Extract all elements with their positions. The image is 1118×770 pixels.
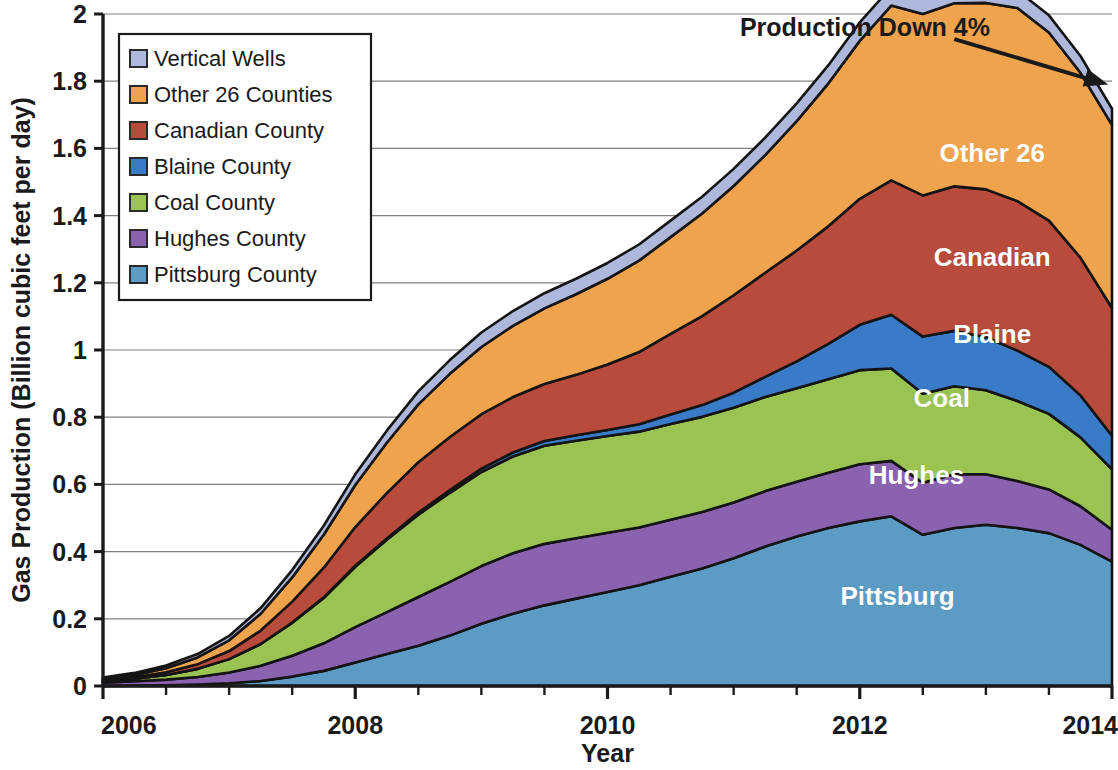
- y-tick-label: 0.8: [52, 403, 87, 431]
- x-tick-label: 2008: [327, 711, 383, 739]
- legend-label: Vertical Wells: [154, 46, 286, 71]
- legend-label: Blaine County: [154, 154, 291, 179]
- legend-item-pittsburg-county[interactable]: Pittsburg County: [130, 262, 317, 287]
- series-label-canadian: Canadian: [934, 242, 1051, 272]
- x-axis-title: Year: [581, 739, 634, 767]
- legend-item-other-26-counties[interactable]: Other 26 Counties: [130, 82, 333, 107]
- series-label-coal: Coal: [914, 383, 970, 413]
- series-label-pittsburg: Pittsburg: [841, 581, 955, 611]
- legend-label: Other 26 Counties: [154, 82, 333, 107]
- x-tick-label: 2006: [101, 711, 157, 739]
- y-tick-label: 2: [73, 0, 87, 28]
- y-tick-label: 0.6: [52, 470, 87, 498]
- y-tick-label: 0.4: [52, 538, 87, 566]
- legend-item-canadian-county[interactable]: Canadian County: [130, 118, 324, 143]
- legend-label: Canadian County: [154, 118, 324, 143]
- production-down-annotation-text: Production Down 4%: [740, 13, 990, 41]
- y-axis-title: Gas Production (Billion cubic feet per d…: [7, 97, 35, 603]
- legend-label: Hughes County: [154, 226, 306, 251]
- chart-canvas: 00.20.40.60.811.21.41.61.822006200820102…: [0, 0, 1118, 770]
- series-label-other-26: Other 26: [939, 138, 1045, 168]
- y-tick-label: 1.4: [52, 202, 87, 230]
- legend-swatch: [130, 194, 147, 211]
- legend-item-vertical-wells[interactable]: Vertical Wells: [130, 46, 286, 71]
- legend-swatch: [130, 230, 147, 247]
- x-tick-label: 2012: [832, 711, 888, 739]
- y-tick-label: 1.2: [52, 269, 87, 297]
- legend: Vertical WellsOther 26 CountiesCanadian …: [119, 34, 371, 300]
- legend-item-hughes-county[interactable]: Hughes County: [130, 226, 306, 251]
- x-tick-label: 2014: [1062, 711, 1118, 739]
- gas-production-stacked-area-chart: 00.20.40.60.811.21.41.61.822006200820102…: [0, 0, 1118, 770]
- legend-label: Pittsburg County: [154, 262, 317, 287]
- legend-item-blaine-county[interactable]: Blaine County: [130, 154, 291, 179]
- legend-swatch: [130, 122, 147, 139]
- y-tick-label: 1.6: [52, 134, 87, 162]
- y-tick-label: 1: [73, 336, 87, 364]
- y-tick-label: 1.8: [52, 67, 87, 95]
- legend-swatch: [130, 86, 147, 103]
- y-tick-label: 0: [73, 672, 87, 700]
- y-tick-label: 0.2: [52, 605, 87, 633]
- x-tick-label: 2010: [580, 711, 636, 739]
- series-label-blaine: Blaine: [953, 319, 1031, 349]
- series-label-hughes: Hughes: [869, 460, 964, 490]
- legend-swatch: [130, 50, 147, 67]
- legend-label: Coal County: [154, 190, 275, 215]
- legend-swatch: [130, 158, 147, 175]
- legend-swatch: [130, 266, 147, 283]
